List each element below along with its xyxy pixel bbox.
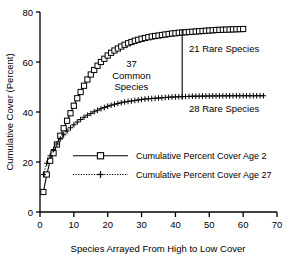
cumulative-cover-chart: 020406080010203040506070 37CommonSpecies… [0, 0, 287, 261]
x-tick-label: 50 [204, 219, 215, 230]
y-axis-label: Cumulative Cover (Percent) [4, 53, 15, 170]
legend-label: Cumulative Percent Cover Age 27 [136, 170, 272, 180]
y-tick-label: 60 [22, 57, 33, 68]
y-tick-label: 40 [22, 107, 33, 118]
data-point [71, 103, 76, 108]
x-tick-label: 60 [238, 219, 249, 230]
data-point [41, 189, 46, 194]
legend-label: Cumulative Percent Cover Age 2 [136, 151, 267, 161]
x-tick-label: 30 [136, 219, 147, 230]
rare-species-age2-annotation: 21 Rare Species [189, 43, 259, 54]
y-tick-label: 80 [22, 7, 33, 18]
data-point [81, 83, 86, 88]
x-tick-label: 20 [102, 219, 113, 230]
x-tick-label: 10 [69, 219, 80, 230]
x-tick-label: 70 [272, 219, 283, 230]
x-tick-label: 40 [170, 219, 181, 230]
x-tick-label: 0 [37, 219, 42, 230]
data-point [61, 126, 66, 131]
common-species-annotation: 37 [126, 58, 137, 69]
x-axis-label: Species Arrayed From High to Low Cover [71, 243, 246, 254]
data-point [64, 118, 69, 123]
figure: 020406080010203040506070 37CommonSpecies… [0, 0, 287, 261]
y-tick-label: 0 [28, 207, 33, 218]
data-point [68, 111, 73, 116]
data-point [78, 89, 83, 94]
legend-marker [97, 153, 103, 159]
data-point [75, 96, 80, 101]
data-point [85, 77, 90, 82]
rare-species-age27-annotation: 28 Rare Species [189, 103, 259, 114]
common-species-annotation: Species [115, 81, 149, 92]
data-point [241, 26, 246, 31]
y-tick-label: 20 [22, 157, 33, 168]
common-species-annotation: Common [112, 70, 151, 81]
